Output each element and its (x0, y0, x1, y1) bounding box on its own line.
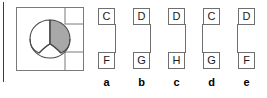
column-b-connector (150, 24, 151, 53)
column-e-label: e (235, 76, 258, 88)
column-c-top-cell: D (168, 8, 185, 25)
column-d-top-cell: C (203, 8, 220, 25)
column-d-bottom-cell: G (203, 52, 220, 69)
column-e: D F e (235, 0, 267, 98)
notch-bottom-right (65, 52, 83, 70)
column-d: C G d (200, 0, 233, 98)
column-d-connector (202, 24, 203, 53)
crescent-shape-icon (17, 8, 83, 70)
column-b-bottom-cell: G (133, 52, 150, 69)
column-e-connector (237, 24, 238, 53)
figure-container: C F a D G b D H c C G d D F e (0, 0, 267, 98)
figure-gutter-rule (3, 2, 4, 82)
column-d-label: d (200, 76, 223, 88)
column-c-label: c (165, 76, 188, 88)
column-b: D G b (130, 0, 163, 98)
column-b-top-cell: D (133, 8, 150, 25)
column-c-connector (185, 24, 186, 53)
column-b-label: b (130, 76, 153, 88)
illustration-panel (16, 7, 84, 71)
notch-top-right (65, 8, 83, 24)
crescent-right-segment (50, 20, 70, 53)
column-e-bottom-cell: F (238, 52, 255, 69)
column-c-bottom-cell: H (168, 52, 185, 69)
column-a-label: a (95, 76, 118, 88)
letter-columns-group: C F a D G b D H c C G d D F e (95, 0, 267, 98)
column-a-top-cell: C (98, 8, 115, 25)
column-c: D H c (165, 0, 198, 98)
column-a-connector (115, 24, 116, 53)
crescent-left-segment (30, 20, 50, 53)
column-e-top-cell: D (238, 8, 255, 25)
column-a-bottom-cell: F (98, 52, 115, 69)
column-a: C F a (95, 0, 128, 98)
